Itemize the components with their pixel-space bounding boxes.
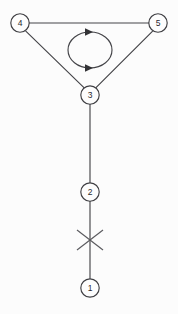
diagram-canvas: 45321 [0, 0, 178, 314]
edge-4-3 [26, 31, 84, 88]
node-3[interactable]: 3 [81, 86, 99, 104]
self-loop-group [68, 28, 112, 72]
node-2-label: 2 [88, 187, 93, 197]
node-4[interactable]: 4 [11, 14, 29, 32]
node-1[interactable]: 1 [81, 279, 99, 297]
self-loop-ellipse [68, 32, 112, 68]
loop-arrow-bottom [85, 64, 93, 72]
edge-5-3 [96, 31, 152, 87]
node-2[interactable]: 2 [81, 183, 99, 201]
loop-arrow-top [85, 28, 93, 36]
node-3-label: 3 [88, 90, 93, 100]
nodes-group: 45321 [11, 14, 167, 297]
node-5-label: 5 [156, 18, 161, 28]
node-4-label: 4 [18, 18, 23, 28]
node-1-label: 1 [88, 283, 93, 293]
graph-svg: 45321 [0, 0, 178, 314]
node-5[interactable]: 5 [149, 14, 167, 32]
